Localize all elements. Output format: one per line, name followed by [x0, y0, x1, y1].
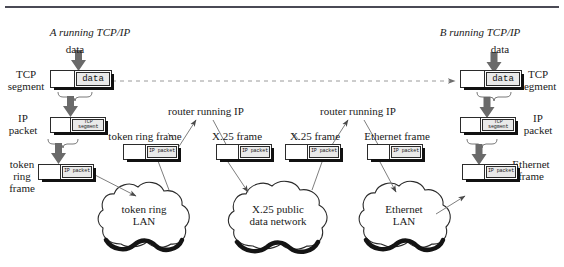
- pdu-header-field: [461, 118, 481, 132]
- cloud-x25-public-data-network: [228, 181, 327, 251]
- pdu-payload-field: IP packet: [62, 166, 92, 178]
- pdu-right-tcp-segment: data: [460, 70, 522, 88]
- pdu-payload-field: IP packet: [309, 146, 339, 158]
- figure-canvas: A running TCP/IP data B running TCP/IP d…: [0, 0, 564, 267]
- pdu-router1-token-ring-frame: IP packet: [123, 144, 179, 160]
- pdu-header-field: [368, 145, 390, 159]
- pdu-left-tcp-segment: data: [50, 70, 112, 88]
- pdu-right-ip-packet: TCP segment: [460, 117, 516, 133]
- pdu-left-token-ring-frame: IP packet: [38, 164, 94, 180]
- label-leader-lines: [168, 133, 299, 140]
- pdu-payload-field: data: [76, 72, 110, 86]
- pdu-x25-frame-right: IP packet: [285, 144, 341, 160]
- pdu-payload-field: IP packet: [486, 166, 516, 178]
- pdu-header-field: [286, 145, 308, 159]
- pdu-header-field: [461, 71, 485, 87]
- pdu-header-field: [217, 145, 239, 159]
- pdu-header-field: [124, 145, 146, 159]
- pdu-left-ip-packet: TCP segment: [50, 117, 106, 133]
- pdu-payload-field: IP packet: [240, 146, 270, 158]
- pdu-header-field: [463, 165, 485, 179]
- pdu-x25-frame-left: IP packet: [216, 144, 272, 160]
- cloud-ethernet-lan: [359, 181, 450, 249]
- pdu-payload-field: data: [486, 72, 520, 86]
- pdu-header-field: [39, 165, 61, 179]
- left-host-flow-arrows: [51, 50, 86, 164]
- pdu-header-field: [51, 71, 75, 87]
- pdu-router2-ethernet-frame: IP packet: [367, 144, 423, 160]
- pdu-payload-field: TCP segment: [482, 119, 514, 131]
- pdu-payload-field: IP packet: [391, 146, 421, 158]
- pdu-header-field: [51, 118, 71, 132]
- pdu-right-ethernet-frame: IP packet: [462, 164, 518, 180]
- cloud-token-ring-lan: [98, 182, 189, 249]
- pdu-payload-field: TCP segment: [72, 119, 104, 131]
- right-host-flow-arrows: [472, 52, 502, 165]
- pdu-payload-field: IP packet: [147, 146, 177, 158]
